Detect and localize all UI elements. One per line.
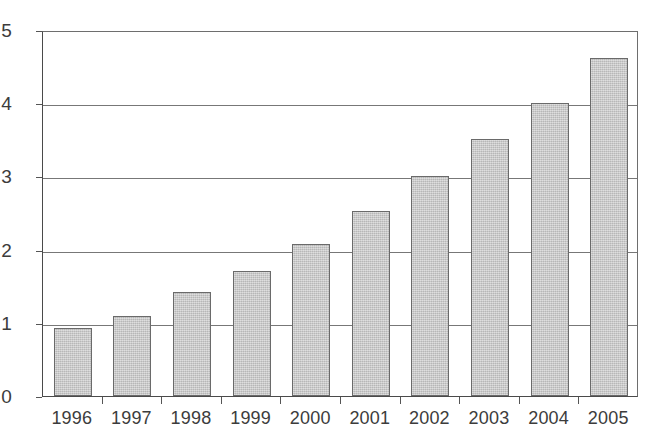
bar-2003 <box>471 139 509 396</box>
y-tick-label-0: 0 <box>0 387 12 406</box>
bar-2000 <box>292 244 330 396</box>
x-tick-label-2000: 2000 <box>280 409 340 427</box>
x-tick-mark-8 <box>578 397 579 404</box>
bar-2004 <box>531 103 569 396</box>
bar-1996 <box>54 328 92 396</box>
y-tick-label-5: 5 <box>0 21 12 40</box>
y-tick-mark-5 <box>36 31 42 32</box>
bar-chart: 012345 199619971998199920002001200220032… <box>0 0 660 447</box>
y-tick-label-3: 3 <box>0 167 12 186</box>
bar-2005 <box>590 58 628 396</box>
x-axis-labels: 1996199719981999200020012002200320042005 <box>42 409 638 435</box>
x-tick-mark-7 <box>519 397 520 404</box>
x-tick-mark-2 <box>221 397 222 404</box>
bar-1999 <box>233 271 271 396</box>
bar-1997 <box>113 316 151 396</box>
x-tick-label-2001: 2001 <box>340 409 400 427</box>
x-tick-mark-0 <box>102 397 103 404</box>
bar-2001 <box>352 211 390 396</box>
y-tick-mark-4 <box>36 104 42 105</box>
bars-layer <box>43 32 637 396</box>
y-tick-label-2: 2 <box>0 241 12 260</box>
plot-area <box>42 31 638 397</box>
x-tick-label-2005: 2005 <box>578 409 638 427</box>
x-tick-mark-3 <box>280 397 281 404</box>
y-tick-mark-3 <box>36 177 42 178</box>
x-tick-mark-5 <box>400 397 401 404</box>
x-tick-label-1998: 1998 <box>161 409 221 427</box>
x-tick-mark-1 <box>161 397 162 404</box>
x-tick-label-2004: 2004 <box>519 409 579 427</box>
y-tick-label-1: 1 <box>0 314 12 333</box>
x-tick-label-2003: 2003 <box>459 409 519 427</box>
bar-2002 <box>411 176 449 396</box>
x-tick-label-1996: 1996 <box>42 409 102 427</box>
x-tick-mark-4 <box>340 397 341 404</box>
x-tick-label-1997: 1997 <box>102 409 162 427</box>
x-tick-label-2002: 2002 <box>400 409 460 427</box>
y-tick-label-4: 4 <box>0 94 12 113</box>
y-tick-mark-1 <box>36 324 42 325</box>
bar-1998 <box>173 292 211 396</box>
y-tick-mark-2 <box>36 251 42 252</box>
x-axis-ticks <box>42 397 638 406</box>
x-tick-label-1999: 1999 <box>221 409 281 427</box>
x-tick-mark-6 <box>459 397 460 404</box>
